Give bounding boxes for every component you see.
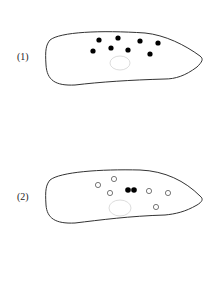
figure-1 (46, 32, 202, 85)
nucleus (110, 56, 130, 70)
filled-dot-pair (125, 187, 137, 193)
nucleus (109, 200, 131, 216)
diagram-canvas (0, 0, 213, 306)
figure-2 (46, 170, 202, 223)
filled-dots (90, 35, 160, 56)
cell-outline (46, 32, 202, 85)
open-dots (95, 176, 170, 209)
